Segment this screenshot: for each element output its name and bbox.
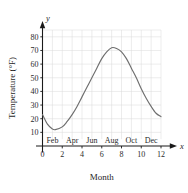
chart-figure: 1020304050607080 024681012 FebAprJunAugO… [0,0,188,193]
month-label: Aug [105,136,119,145]
y-tick-label: 50 [31,74,39,83]
y-tick-label: 40 [31,87,39,96]
y-tick-label: 70 [31,46,39,55]
month-label: Feb [46,136,58,145]
y-tick-label: 60 [31,60,39,69]
x-tick-label: 2 [60,150,64,159]
y-tick-label: 10 [31,128,39,137]
y-tick-label: 20 [31,115,39,124]
y-tick-label: 30 [31,101,39,110]
y-axis-ticks: 1020304050607080 [31,33,43,138]
x-tick-label: 10 [137,150,145,159]
x-axis-title: Month [90,172,115,182]
x-tick-label: 6 [100,150,104,159]
y-axis-variable-label: y [45,13,50,23]
month-label: Oct [126,136,138,145]
temperature-line-chart: 1020304050607080 024681012 FebAprJunAugO… [0,0,188,193]
gridlines [43,30,162,139]
month-label: Apr [66,136,79,145]
axes [36,21,177,153]
x-tick-label: 0 [41,150,45,159]
month-label: Jun [86,136,97,145]
y-tick-label: 80 [31,33,39,42]
x-tick-label: 8 [120,150,124,159]
y-axis-title: Temperature (°F) [7,57,17,119]
y-axis-arrow-icon [40,21,45,28]
x-tick-label: 12 [157,150,165,159]
x-axis-ticks: 024681012 [41,146,166,159]
x-tick-label: 4 [80,150,84,159]
x-axis-variable-label: x [179,141,184,151]
month-label: Dec [145,136,158,145]
x-axis-arrow-icon [170,143,177,148]
